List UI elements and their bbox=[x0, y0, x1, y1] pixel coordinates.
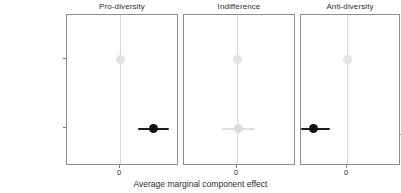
estimate-indifference-overrepresented bbox=[184, 54, 295, 65]
dot-whisker-chart: Overrepresented (white, man, etc.) Under… bbox=[0, 0, 401, 193]
zero-reference-line-pro-diversity bbox=[120, 15, 121, 164]
point-marker bbox=[233, 55, 242, 64]
estimate-pro-diversity-overrepresented bbox=[67, 54, 178, 65]
zero-reference-line-indifference bbox=[237, 15, 238, 164]
point-marker bbox=[234, 124, 243, 133]
facet-title-pro-diversity: Pro-diversity bbox=[66, 1, 178, 13]
facet-title-anti-diversity: Anti-diversity bbox=[300, 1, 400, 13]
point-marker bbox=[343, 55, 352, 64]
x-axis-tick-label-indifference: 0 bbox=[226, 168, 246, 177]
point-marker bbox=[116, 55, 125, 64]
panel-pro-diversity bbox=[66, 14, 178, 165]
point-marker bbox=[149, 124, 158, 133]
panel-indifference bbox=[183, 14, 295, 165]
estimate-pro-diversity-underrepresented bbox=[67, 123, 178, 134]
x-axis-tick-label-anti-diversity: 0 bbox=[336, 168, 356, 177]
zero-reference-line-anti-diversity bbox=[347, 15, 348, 164]
x-axis-tick-label-pro-diversity: 0 bbox=[109, 168, 129, 177]
x-axis-title: Average marginal component effect bbox=[0, 179, 401, 189]
estimate-anti-diversity-underrepresented bbox=[301, 123, 400, 134]
point-marker bbox=[309, 124, 318, 133]
panel-anti-diversity bbox=[300, 14, 400, 165]
facet-title-indifference: Indifference bbox=[183, 1, 295, 13]
estimate-indifference-underrepresented bbox=[184, 123, 295, 134]
estimate-anti-diversity-overrepresented bbox=[301, 54, 400, 65]
